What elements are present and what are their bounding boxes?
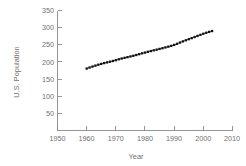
data-point-marker	[144, 51, 146, 53]
data-point-marker	[132, 55, 134, 57]
x-tick-marks	[58, 126, 233, 131]
y-tick-marks	[58, 11, 62, 114]
y-tick-label: 100	[42, 92, 54, 101]
population-line-chart: 350 300 250 200 150 100 50 1950 1960 197…	[0, 0, 246, 166]
data-series	[86, 30, 214, 70]
data-point-marker	[115, 59, 117, 61]
data-point-marker	[106, 61, 108, 63]
data-point-marker	[179, 41, 181, 43]
chart-figure: 350 300 250 200 150 100 50 1950 1960 197…	[0, 0, 246, 166]
data-point-marker	[188, 38, 190, 40]
x-tick-label: 1970	[108, 134, 124, 143]
data-point-marker	[208, 31, 210, 33]
data-point-marker	[193, 36, 195, 38]
series-line	[87, 31, 212, 69]
y-tick-label: 250	[42, 40, 54, 49]
x-tick-label: 1990	[166, 134, 182, 143]
x-tick-label: 1980	[137, 134, 153, 143]
y-tick-label: 300	[42, 23, 54, 32]
y-axis-title: U.S. Population	[12, 46, 21, 97]
x-tick-label: 2010	[224, 134, 240, 143]
data-point-marker	[150, 50, 152, 52]
data-point-marker	[118, 58, 120, 60]
data-point-marker	[112, 60, 114, 62]
y-tick-label: 50	[46, 109, 54, 118]
data-point-marker	[103, 62, 105, 64]
data-point-marker	[109, 61, 111, 63]
data-point-marker	[161, 47, 163, 49]
data-point-marker	[88, 66, 90, 68]
data-point-marker	[97, 64, 99, 66]
data-point-marker	[211, 30, 213, 32]
data-point-marker	[123, 57, 125, 59]
data-point-marker	[205, 32, 207, 34]
y-tick-label: 150	[42, 75, 54, 84]
data-point-marker	[176, 43, 178, 45]
x-tick-labels: 1950 1960 1970 1980 1990 2000 2010	[50, 134, 241, 143]
data-point-marker	[141, 52, 143, 54]
data-point-marker	[173, 44, 175, 46]
data-point-marker	[100, 63, 102, 65]
x-tick-label: 2000	[195, 134, 211, 143]
data-point-marker	[164, 46, 166, 48]
data-point-marker	[191, 37, 193, 39]
data-point-marker	[138, 53, 140, 55]
data-point-marker	[86, 67, 88, 69]
data-point-marker	[91, 65, 93, 67]
data-point-marker	[185, 39, 187, 41]
data-point-marker	[199, 34, 201, 36]
data-point-marker	[170, 45, 172, 47]
x-tick-label: 1960	[79, 134, 95, 143]
data-point-marker	[147, 51, 149, 53]
data-point-marker	[135, 54, 137, 56]
data-point-marker	[94, 64, 96, 66]
data-point-marker	[167, 46, 169, 48]
data-point-marker	[129, 55, 131, 57]
x-tick-label: 1950	[50, 134, 66, 143]
data-point-marker	[202, 33, 204, 35]
y-tick-label: 350	[42, 6, 54, 15]
data-point-marker	[156, 49, 158, 51]
data-point-marker	[158, 48, 160, 50]
data-point-marker	[196, 35, 198, 37]
x-axis-title: Year	[129, 152, 144, 161]
data-point-marker	[153, 49, 155, 51]
data-point-marker	[182, 40, 184, 42]
data-point-marker	[126, 56, 128, 58]
y-tick-label: 200	[42, 58, 54, 67]
y-tick-labels: 350 300 250 200 150 100 50	[42, 6, 54, 118]
data-point-marker	[121, 57, 123, 59]
